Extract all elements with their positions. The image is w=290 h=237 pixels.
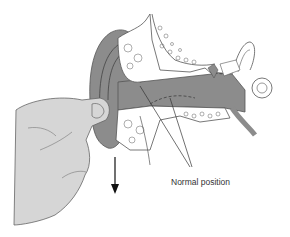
temporal-bone-lower bbox=[116, 106, 230, 165]
normal-position-label: Normal position bbox=[171, 177, 230, 187]
ear-anatomy-illustration bbox=[0, 0, 290, 237]
down-arrow-icon bbox=[111, 157, 119, 194]
temporal-bone-upper bbox=[118, 14, 215, 82]
hand bbox=[14, 98, 109, 225]
